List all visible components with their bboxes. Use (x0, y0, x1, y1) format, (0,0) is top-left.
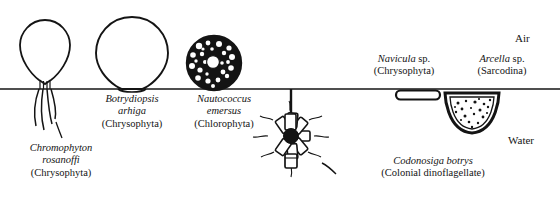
label-arcella: Arcella sp. (Sarcodina) (452, 53, 552, 78)
organism-navicula (396, 91, 440, 100)
organism-chromophyton (20, 20, 70, 130)
organism-botrydiopsis (96, 17, 168, 92)
label-arcella-group: (Sarcodina) (452, 65, 552, 77)
organism-nautococcus (187, 36, 241, 90)
chromophyton-filaments (35, 89, 56, 130)
label-chromophyton-genus: Chromophyton (2, 142, 120, 154)
neuston-diagram: Chromophyton rosanoffi (Chrysophyta) Bot… (0, 0, 560, 208)
label-codonosiga-name: Codonosiga botrys (344, 155, 522, 167)
label-air-zone: Air (515, 32, 530, 44)
label-navicula-group: (Chrysophyta) (352, 65, 456, 77)
label-codonosiga: Codonosiga botrys (Colonial dinoflagella… (344, 155, 522, 180)
label-chromophyton: Chromophyton rosanoffi (Chrysophyta) (2, 142, 120, 179)
label-botrydiopsis: Botrydiopsis arhiga (Chrysophyta) (80, 93, 184, 130)
label-nautococcus-genus: Nautococcus (172, 93, 276, 105)
chromophyton-leader-line (56, 122, 62, 138)
label-arcella-sp: sp. (510, 53, 525, 64)
label-navicula-genus: Navicula (378, 53, 416, 64)
label-water-zone: Water (508, 134, 534, 146)
organism-arcella (445, 93, 499, 133)
label-arcella-genus: Arcella (479, 53, 510, 64)
label-codonosiga-group: (Colonial dinoflagellate) (344, 167, 522, 179)
label-navicula-sp: sp. (416, 53, 431, 64)
label-chromophyton-group: (Chrysophyta) (2, 167, 120, 179)
label-navicula-name: Navicula sp. (352, 53, 456, 65)
label-nautococcus-species: emersus (172, 105, 276, 117)
label-nautococcus-group: (Chlorophyta) (172, 118, 276, 130)
label-arcella-name: Arcella sp. (452, 53, 552, 65)
label-botrydiopsis-species: arhiga (80, 105, 184, 117)
label-botrydiopsis-genus: Botrydiopsis (80, 93, 184, 105)
label-nautococcus: Nautococcus emersus (Chlorophyta) (172, 93, 276, 130)
label-chromophyton-species: rosanoffi (2, 154, 120, 166)
label-navicula: Navicula sp. (Chrysophyta) (352, 53, 456, 78)
label-botrydiopsis-group: (Chrysophyta) (80, 118, 184, 130)
